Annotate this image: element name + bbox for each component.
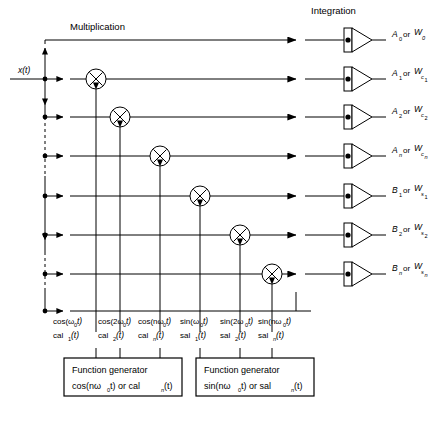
fg1-expr-b: t) or cal (110, 381, 140, 391)
output-main-symbol: A (391, 68, 398, 78)
carrier-label-6: sin(nω 0 t) sal n (t) (258, 316, 291, 342)
header-integration: Integration (311, 5, 356, 16)
carrier-walsh: sal (180, 331, 190, 340)
output-conjunction: or (403, 225, 410, 234)
output-main-symbol: A (391, 106, 398, 116)
integrator-0 (344, 28, 386, 52)
output-main-subscript: 0 (399, 36, 402, 42)
output-label-0: A 0 or W 0 (391, 27, 426, 42)
output-label-2: A 2 or W c 2 (391, 104, 428, 121)
carrier-walsh-tail: (t) (198, 330, 206, 340)
junction-dot-icon (43, 77, 48, 82)
fg2-expr-a: sin(nω (204, 381, 231, 391)
output-alt-subscript: 0 (422, 35, 426, 41)
carrier-trig: cos(2ω (98, 317, 124, 326)
input-signal-label: x(t) (17, 65, 30, 75)
integrator-5 (344, 223, 386, 247)
system-block-diagram: Multiplication Integration x(t) (0, 0, 428, 422)
output-conjunction: or (403, 186, 410, 195)
carrier-trig-tail: t) (166, 316, 171, 326)
fg1-line1: Function generator (72, 365, 148, 375)
output-main-symbol: B (392, 263, 398, 273)
carrier-trig: cos(nω (138, 317, 164, 326)
carrier-trig-tail: t) (203, 316, 208, 326)
carrier-walsh: sal (258, 331, 268, 340)
carrier-walsh: cal (53, 331, 63, 340)
carrier-trig-tail: t) (126, 316, 131, 326)
fg1-expr-c: (t) (164, 381, 173, 391)
output-main-symbol: B (392, 224, 398, 234)
integrator-3 (344, 144, 386, 168)
carrier-trig-tail: t) (248, 316, 253, 326)
output-alt-subscript2: 2 (425, 115, 428, 121)
carrier-walsh-tail: (t) (116, 330, 124, 340)
output-alt-subscript2: 1 (425, 77, 428, 83)
integrator-6 (344, 262, 386, 286)
output-main-symbol: A (391, 29, 398, 39)
carrier-walsh: sal (220, 331, 230, 340)
carrier-trig-tail: t) (77, 316, 82, 326)
junction-dot-icon (43, 115, 48, 120)
fg1-expr-a: cos(nω (72, 381, 101, 391)
output-main-symbol: A (391, 145, 398, 155)
fg2-line1: Function generator (204, 365, 280, 375)
carrier-label-4: sin(ω 0 t) sal 1 (t) (180, 316, 208, 342)
junction-dot-icon (43, 233, 48, 238)
carrier-walsh: cal (98, 331, 108, 340)
output-main-subscript: 1 (399, 192, 402, 198)
output-alt-subscript2: 1 (425, 194, 428, 200)
integrator-1 (344, 67, 386, 91)
output-conjunction: or (403, 264, 410, 273)
junction-dot-icon (43, 154, 48, 159)
carrier-walsh-tail: (t) (276, 330, 284, 340)
output-main-subscript: 1 (399, 75, 402, 81)
carrier-trig-tail: t) (286, 316, 291, 326)
output-label-6: B n or W s n (392, 261, 428, 278)
carrier-trig: cos(ω (53, 317, 74, 326)
junction-dot-icon (43, 272, 48, 277)
output-main-subscript: 2 (399, 231, 402, 237)
integrator-2 (344, 105, 386, 129)
carrier-label-1: cos(ω 0 t) cal 1 (t) (53, 316, 82, 342)
carrier-walsh-tail: (t) (238, 330, 246, 340)
header-multiplication: Multiplication (70, 21, 125, 32)
carrier-trig: sin(ω (180, 317, 199, 326)
output-main-symbol: B (392, 185, 398, 195)
carrier-trig: sin(2ω (220, 317, 244, 326)
junction-dot-icon (43, 194, 48, 199)
output-label-1: A 1 or W c 1 (391, 66, 428, 83)
carrier-label-2: cos(2ω 0 t) cal 2 (t) (98, 316, 131, 342)
carrier-label-5: sin(2ω 0 t) sal 2 (t) (220, 316, 253, 342)
output-label-4: B 1 or W s 1 (392, 183, 428, 200)
carrier-walsh-tail: (t) (71, 330, 79, 340)
output-main-subscript: n (399, 152, 402, 158)
fg2-expr-c: (t) (294, 381, 303, 391)
carrier-walsh: cal (138, 331, 148, 340)
integrator-4 (344, 184, 386, 208)
carrier-label-3: cos(nω 0 t) cal n (t) (138, 316, 171, 342)
output-main-subscript: n (399, 270, 402, 276)
output-alt-subscript2: n (425, 272, 428, 278)
output-conjunction: or (403, 30, 410, 39)
output-alt-subscript2: n (425, 154, 428, 160)
carrier-trig: sin(nω (258, 317, 282, 326)
output-alt-subscript2: 2 (425, 233, 428, 239)
output-main-subscript: 2 (399, 113, 402, 119)
output-label-3: A n or W c n (391, 143, 428, 160)
output-label-5: B 2 or W s 2 (392, 222, 428, 239)
junction-dot-icon (43, 309, 48, 314)
fg2-expr-b: t) or sal (241, 381, 271, 391)
output-conjunction: or (403, 107, 410, 116)
output-conjunction: or (403, 69, 410, 78)
output-conjunction: or (403, 146, 410, 155)
carrier-walsh-tail: (t) (156, 330, 164, 340)
